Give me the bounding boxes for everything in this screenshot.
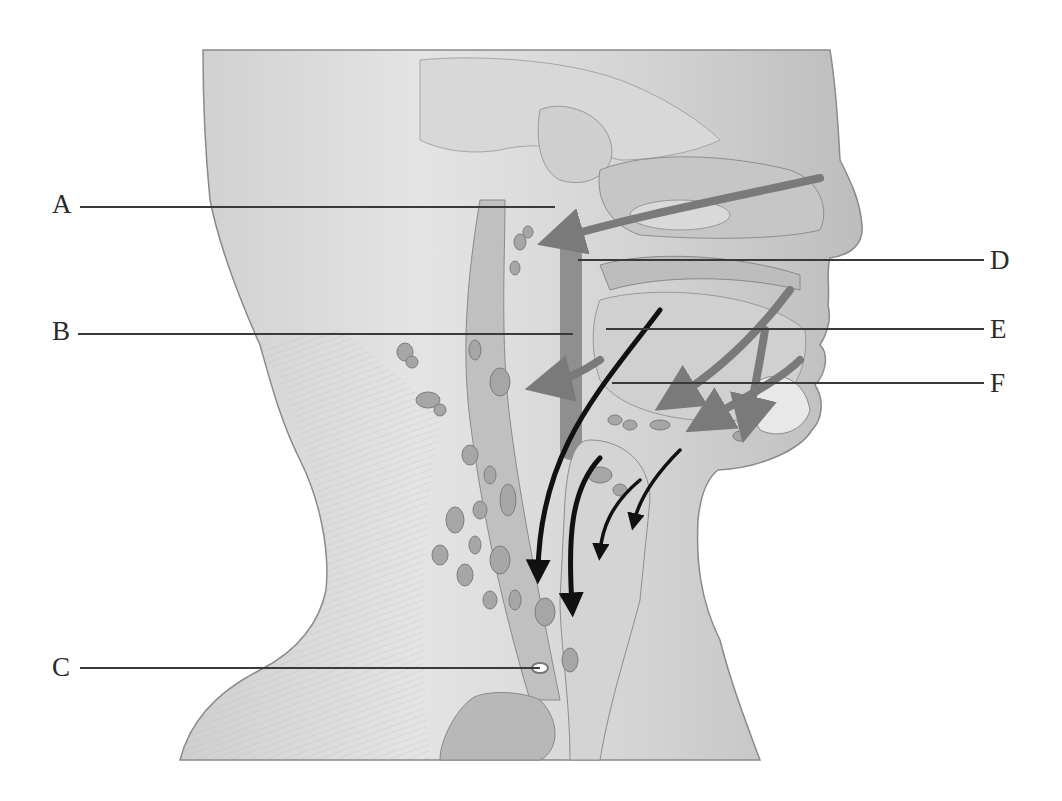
- leader-line-c: [80, 667, 540, 669]
- label-f: F: [990, 370, 1005, 397]
- label-a: A: [52, 191, 72, 218]
- label-c: C: [52, 654, 70, 681]
- label-e: E: [990, 316, 1007, 343]
- leader-line-a: [80, 206, 555, 208]
- label-d: D: [990, 247, 1010, 274]
- anatomy-figure: A B C D E F: [0, 0, 1062, 801]
- label-b: B: [52, 318, 70, 345]
- leader-line-e: [606, 328, 984, 330]
- leader-line-d: [578, 259, 984, 261]
- leader-line-b: [78, 333, 573, 335]
- sternocleidomastoid-muscle: [180, 330, 440, 760]
- head-neck-illustration: [0, 0, 1062, 801]
- leader-line-f: [612, 382, 984, 384]
